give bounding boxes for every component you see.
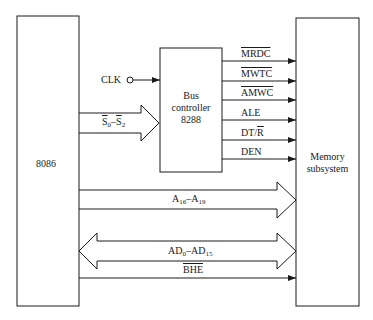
den-label: DEN — [241, 146, 262, 158]
mwtc-label: MWTC — [241, 68, 272, 80]
bus-controller-label-line1: Bus — [160, 90, 222, 102]
bus-controller-label-line2: controller — [160, 102, 222, 114]
bus-controller-label: Bus controller 8288 — [160, 90, 222, 126]
cpu-label: 8086 — [36, 158, 56, 170]
ale-label: ALE — [241, 107, 260, 119]
clk-terminal-icon — [127, 77, 133, 83]
address-data-bus-label: AD0–AD15 — [168, 245, 212, 257]
clk-label: CLK — [101, 74, 121, 86]
mrdc-label: MRDC — [241, 48, 270, 60]
amwc-label: AMWC — [241, 87, 273, 99]
status-bus-label: S0–S2 — [102, 116, 125, 128]
memory-label-line2: subsystem — [296, 163, 359, 175]
bus-controller-label-line3: 8288 — [160, 114, 222, 126]
address-high-bus-label: A16–A19 — [172, 193, 205, 205]
dtr-label: DT/R — [241, 127, 264, 139]
bhe-label: BHE — [183, 264, 203, 276]
memory-label: Memory subsystem — [296, 151, 359, 175]
memory-label-line1: Memory — [296, 151, 359, 163]
